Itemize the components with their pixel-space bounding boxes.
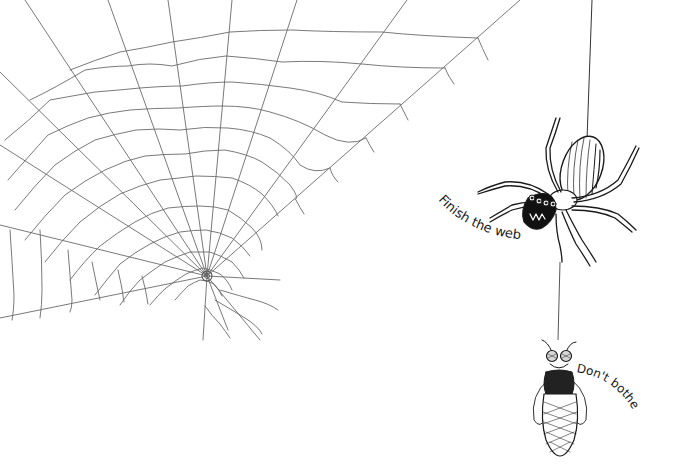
spider-speech-text: Finish the web (436, 192, 522, 243)
spider-web (0, 0, 520, 340)
cartoon-canvas: Finish the web Don't bother (0, 0, 681, 467)
spider (478, 118, 639, 266)
spider-speech: Finish the web (436, 192, 522, 243)
spider-legs (478, 118, 639, 266)
spider-thread (587, 0, 592, 140)
spider-head (523, 194, 556, 230)
web-spiral (5, 30, 488, 338)
illustration: Finish the web Don't bother (0, 0, 681, 467)
wrapped-fly (533, 340, 586, 456)
web-spokes (0, 0, 520, 340)
fly-thread (558, 262, 560, 340)
